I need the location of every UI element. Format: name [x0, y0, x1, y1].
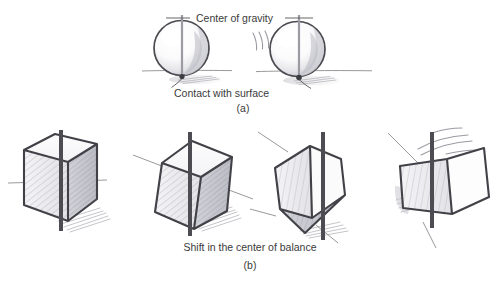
panel-label-b: (b) — [244, 259, 257, 271]
cube-tilted-slight — [133, 132, 253, 236]
cube-falling — [388, 128, 489, 248]
tilt-line-cube3-left — [250, 209, 276, 216]
panel-b: Shift in the center of balance (b) — [8, 128, 489, 271]
cube-on-corner — [250, 132, 348, 243]
cube-falling-face-left-hatch — [400, 159, 452, 214]
label-contact-with-surface: Contact with surface — [174, 87, 269, 99]
tilt-line-cube4-lower — [423, 222, 436, 248]
figure-center-of-gravity: Center of gravity Contact with surface (… — [0, 0, 501, 284]
ground-line-cube2-right — [229, 190, 253, 199]
sphere-upright-highlight — [161, 28, 183, 46]
panel-a: Center of gravity Contact with surface (… — [142, 12, 372, 115]
cube-upright — [8, 130, 110, 232]
sphere-upright — [154, 15, 223, 84]
panel-label-a: (a) — [237, 102, 250, 114]
contact-point-right — [296, 75, 302, 81]
motion-lines — [253, 31, 269, 50]
contact-point-left — [179, 74, 184, 79]
tilt-line-cube3-lower — [316, 225, 338, 243]
label-center-of-gravity: Center of gravity — [196, 12, 274, 24]
sphere-tilted — [253, 15, 341, 85]
tilt-line-cube3-upper — [258, 132, 288, 152]
sphere-tilted-highlight — [277, 29, 299, 47]
label-shift-in-center-of-balance: Shift in the center of balance — [183, 241, 316, 253]
